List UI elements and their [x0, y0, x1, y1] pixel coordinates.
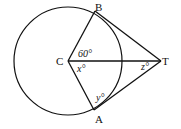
label-b: B [95, 1, 102, 13]
angle-cat: y° [95, 92, 104, 103]
angle-tca: x° [76, 63, 85, 74]
label-t: T [162, 55, 169, 67]
angle-bct: 60° [78, 48, 92, 59]
tangent-bt [95, 11, 161, 61]
label-c: C [56, 55, 63, 67]
geometry-diagram: B C T A 60° x° y° z° [0, 0, 181, 129]
label-a: A [95, 113, 103, 125]
angle-cta: z° [140, 61, 149, 72]
